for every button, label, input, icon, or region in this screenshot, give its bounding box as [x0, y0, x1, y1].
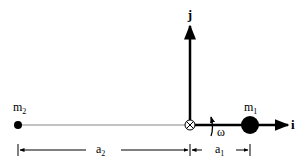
- j-axis-label: j: [187, 7, 192, 22]
- origin-cross-circle-icon: [185, 120, 195, 130]
- rotating-masses-diagram: j i ω m1 m2 a2 a1: [0, 0, 305, 165]
- a2-label: a2: [96, 142, 105, 158]
- omega-label: ω: [217, 125, 225, 139]
- diagram-canvas: j i ω m1 m2 a2 a1: [0, 0, 305, 165]
- dimension-a1: a1: [192, 142, 250, 158]
- m1-label: m1: [244, 100, 257, 116]
- rotation-arrow-icon: [211, 117, 213, 136]
- mass-m1: [241, 116, 259, 134]
- mass-m2: [14, 121, 22, 129]
- m2-label: m2: [13, 100, 26, 116]
- a1-label: a1: [215, 142, 224, 158]
- i-axis-label: i: [291, 117, 295, 132]
- dimension-a2: a2: [18, 142, 188, 158]
